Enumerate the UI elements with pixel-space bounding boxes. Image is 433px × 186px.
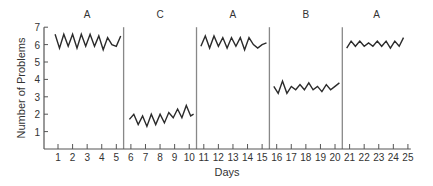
y-axis-ticks: 1234567: [34, 22, 48, 137]
x-tick-label: 19: [315, 152, 327, 163]
x-tick-label: 16: [271, 152, 283, 163]
phase-label: A: [230, 9, 237, 20]
y-tick-label: 4: [34, 74, 40, 85]
data-line: [201, 36, 267, 50]
x-tick-label: 4: [99, 152, 105, 163]
x-tick-label: 9: [172, 152, 178, 163]
x-tick-label: 8: [157, 152, 163, 163]
x-tick-label: 10: [184, 152, 196, 163]
data-series: [55, 34, 403, 126]
phase-label: C: [156, 9, 163, 20]
phase-labels: ACABA: [84, 9, 380, 20]
y-axis-label: Number of Problems: [15, 37, 27, 138]
phase-label: A: [373, 9, 380, 20]
y-tick-label: 1: [34, 127, 40, 138]
data-line: [129, 106, 193, 127]
x-tick-label: 6: [128, 152, 134, 163]
x-tick-label: 2: [70, 152, 76, 163]
x-axis-label: Days: [214, 166, 240, 178]
x-tick-label: 7: [143, 152, 149, 163]
x-tick-label: 14: [242, 152, 254, 163]
x-axis-ticks: 1234567891011121314151617181920212223242…: [55, 144, 414, 163]
x-tick-label: 22: [359, 152, 371, 163]
y-tick-label: 6: [34, 40, 40, 51]
x-tick-label: 20: [329, 152, 341, 163]
x-tick-label: 25: [402, 152, 414, 163]
x-tick-label: 11: [199, 152, 210, 163]
x-tick-label: 3: [84, 152, 90, 163]
x-tick-label: 23: [373, 152, 385, 163]
x-tick-label: 18: [300, 152, 312, 163]
phase-dividers: [124, 27, 343, 149]
data-line: [55, 34, 121, 50]
x-tick-label: 24: [388, 152, 400, 163]
y-tick-label: 7: [34, 22, 40, 33]
y-tick-label: 2: [34, 109, 40, 120]
phase-label: B: [303, 9, 310, 20]
phase-label: A: [84, 9, 91, 20]
x-tick-label: 21: [344, 152, 356, 163]
x-tick-label: 17: [286, 152, 298, 163]
data-line: [274, 81, 340, 93]
x-tick-label: 13: [227, 152, 239, 163]
x-tick-label: 15: [257, 152, 269, 163]
x-tick-label: 1: [55, 152, 61, 163]
data-line: [347, 38, 404, 49]
single-case-design-chart: ACABA 1234567 12345678910111213141516171…: [0, 0, 433, 186]
y-tick-label: 3: [34, 92, 40, 103]
y-tick-label: 5: [34, 57, 40, 68]
x-tick-label: 5: [114, 152, 120, 163]
x-tick-label: 12: [213, 152, 225, 163]
